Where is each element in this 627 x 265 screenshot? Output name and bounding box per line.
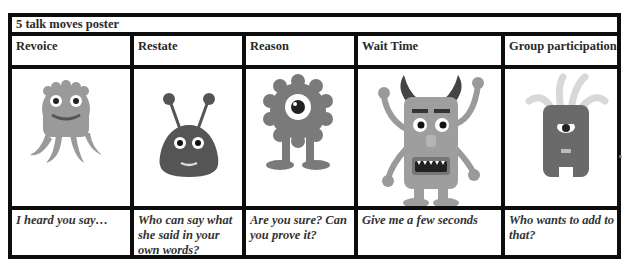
- column-heading-cell: Reason: [246, 36, 354, 69]
- column-heading-cell: Revoice: [12, 36, 130, 69]
- column-revoice: Revoice I heard: [12, 36, 130, 255]
- talk-moves-poster-table: 5 talk moves poster Revoice: [8, 13, 621, 259]
- phrase-text: Who wants to add to that?: [509, 213, 614, 243]
- column-group-participation: Group participation Who: [501, 36, 617, 255]
- octopus-monster-icon: [26, 79, 106, 169]
- column-heading-cell: Group participation: [505, 36, 617, 69]
- cyclops-gear-monster-icon: [258, 73, 338, 173]
- column-heading: Wait Time: [362, 39, 418, 53]
- speck-mark: [619, 155, 622, 158]
- antenna-blob-monster-icon: [154, 87, 224, 177]
- phrase-cell: Are you sure? Can you prove it?: [246, 210, 354, 255]
- monster-image-cell: [505, 69, 617, 210]
- column-heading-cell: Wait Time: [358, 36, 501, 69]
- column-heading: Group participation: [509, 39, 617, 53]
- phrase-text: Are you sure? Can you prove it?: [250, 213, 351, 243]
- phrase-cell: I heard you say…: [12, 210, 130, 255]
- column-reason: Reason Are you sure? Can you prove it?: [242, 36, 354, 255]
- column-heading: Restate: [138, 39, 178, 53]
- monster-image-cell: [246, 69, 354, 210]
- poster-title-row: 5 talk moves poster: [12, 17, 617, 36]
- monster-image-cell: [358, 69, 501, 210]
- monster-image-cell: [134, 69, 242, 210]
- column-heading-cell: Restate: [134, 36, 242, 69]
- horned-monster-icon: [366, 69, 496, 206]
- column-heading: Reason: [250, 39, 289, 53]
- tentacle-head-monster-icon: [523, 71, 613, 181]
- poster-grid: Revoice I heard: [12, 36, 617, 255]
- phrase-cell: Give me a few seconds: [358, 210, 501, 255]
- poster-title: 5 talk moves poster: [16, 17, 119, 32]
- phrase-text: I heard you say…: [16, 213, 127, 228]
- column-restate: Restate Who can say what she said in you…: [130, 36, 242, 255]
- phrase-text: Give me a few seconds: [362, 213, 498, 228]
- column-wait-time: Wait Time: [354, 36, 501, 255]
- monster-image-cell: [12, 69, 130, 210]
- phrase-text: Who can say what she said in your own wo…: [138, 213, 239, 258]
- column-heading: Revoice: [16, 39, 58, 53]
- phrase-cell: Who wants to add to that?: [505, 210, 617, 255]
- phrase-cell: Who can say what she said in your own wo…: [134, 210, 242, 255]
